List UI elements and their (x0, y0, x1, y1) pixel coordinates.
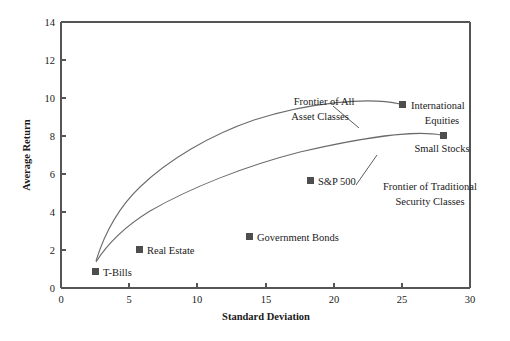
y-axis-ticks: 0 2 4 6 8 10 12 14 (45, 17, 67, 294)
chart-plot-area: 0 2 4 6 8 10 12 14 0 5 10 15 20 25 30 (0, 0, 510, 341)
y-tick-label-4: 4 (50, 207, 56, 218)
annotation-frontier-all-line1: Frontier of All (294, 96, 355, 107)
data-point-label-line2: Equities (425, 115, 459, 126)
data-point-label: S&P 500 (318, 176, 356, 187)
x-tick-label-5: 5 (126, 294, 131, 305)
x-tick-label-20: 20 (329, 294, 340, 305)
data-point-label-line1: International (411, 100, 465, 111)
data-point-label: Real Estate (147, 245, 195, 256)
x-tick-label-10: 10 (192, 294, 203, 305)
data-point-label: Government Bonds (257, 232, 339, 243)
data-point-sp-500[interactable]: S&P 500 (307, 176, 356, 187)
data-point-marker (136, 246, 143, 253)
y-axis-title: Average Return (21, 119, 32, 190)
x-tick-label-30: 30 (465, 294, 476, 305)
data-point-marker (92, 268, 99, 275)
data-point-international-equities[interactable]: International Equities (399, 100, 465, 126)
y-tick-label-8: 8 (50, 131, 55, 142)
annotation-frontier-all-line2: Asset Classes (291, 111, 348, 122)
y-tick-label-6: 6 (50, 169, 55, 180)
annotation-frontier-all-asset-classes: Frontier of All Asset Classes (291, 96, 354, 122)
annotation-frontier-traditional-line2: Security Classes (395, 196, 464, 207)
y-tick-label-2: 2 (50, 245, 55, 256)
y-tick-label-10: 10 (45, 93, 56, 104)
axes-frame (61, 22, 470, 288)
data-point-label: T-Bills (103, 267, 132, 278)
x-tick-label-15: 15 (261, 294, 272, 305)
leader-line-frontier-traditional (356, 155, 377, 185)
data-point-marker (399, 101, 406, 108)
data-point-t-bills[interactable]: T-Bills (92, 267, 132, 278)
annotation-frontier-traditional-security-classes: Frontier of Traditional Security Classes (383, 181, 477, 207)
annotation-frontier-traditional-line1: Frontier of Traditional (383, 181, 477, 192)
y-tick-label-0: 0 (50, 283, 55, 294)
data-point-real-estate[interactable]: Real Estate (136, 245, 195, 256)
y-tick-label-12: 12 (45, 55, 56, 66)
data-point-marker (246, 233, 253, 240)
x-axis-ticks: 0 5 10 15 20 25 30 (58, 283, 475, 305)
data-point-small-stocks[interactable]: Small Stocks (414, 132, 469, 154)
investment-frontier-chart: 0 2 4 6 8 10 12 14 0 5 10 15 20 25 30 (0, 0, 510, 341)
data-point-government-bonds[interactable]: Government Bonds (246, 232, 339, 243)
data-point-marker (440, 132, 447, 139)
x-axis-title: Standard Deviation (222, 311, 310, 322)
x-tick-label-25: 25 (397, 294, 408, 305)
data-point-marker (307, 177, 314, 184)
y-tick-label-14: 14 (45, 17, 56, 28)
x-tick-label-0: 0 (58, 294, 63, 305)
data-point-label: Small Stocks (414, 143, 469, 154)
